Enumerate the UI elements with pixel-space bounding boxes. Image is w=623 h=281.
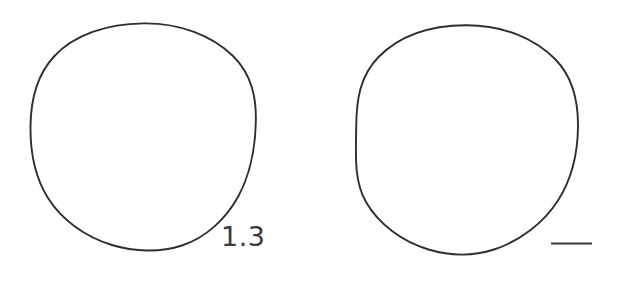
specimen-right-group [356, 25, 578, 254]
specimen-right-outline [356, 25, 578, 254]
figure-canvas: Line drawing of two circular specimen ou… [0, 0, 623, 281]
drawing-surface [0, 0, 623, 281]
specimen-left-label: 1.3 [221, 223, 265, 250]
specimen-left-group [30, 23, 255, 250]
specimen-left-outline [30, 23, 255, 250]
